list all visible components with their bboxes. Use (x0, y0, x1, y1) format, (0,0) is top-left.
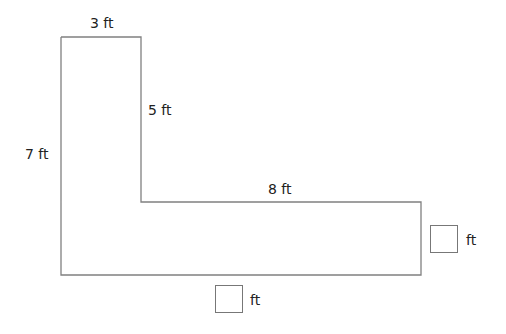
right-side-answer-box[interactable] (430, 225, 458, 253)
l-shape-figure (0, 0, 506, 334)
l-shape-outline (61, 37, 421, 275)
bottom-side-unit-label: ft (250, 292, 260, 308)
top-side-label: 3 ft (90, 15, 114, 31)
right-side-unit-label: ft (466, 232, 476, 248)
inner-horizontal-side-label: 8 ft (268, 181, 292, 197)
left-side-label: 7 ft (25, 146, 49, 162)
inner-vertical-side-label: 5 ft (148, 102, 172, 118)
bottom-side-answer-box[interactable] (215, 285, 243, 313)
